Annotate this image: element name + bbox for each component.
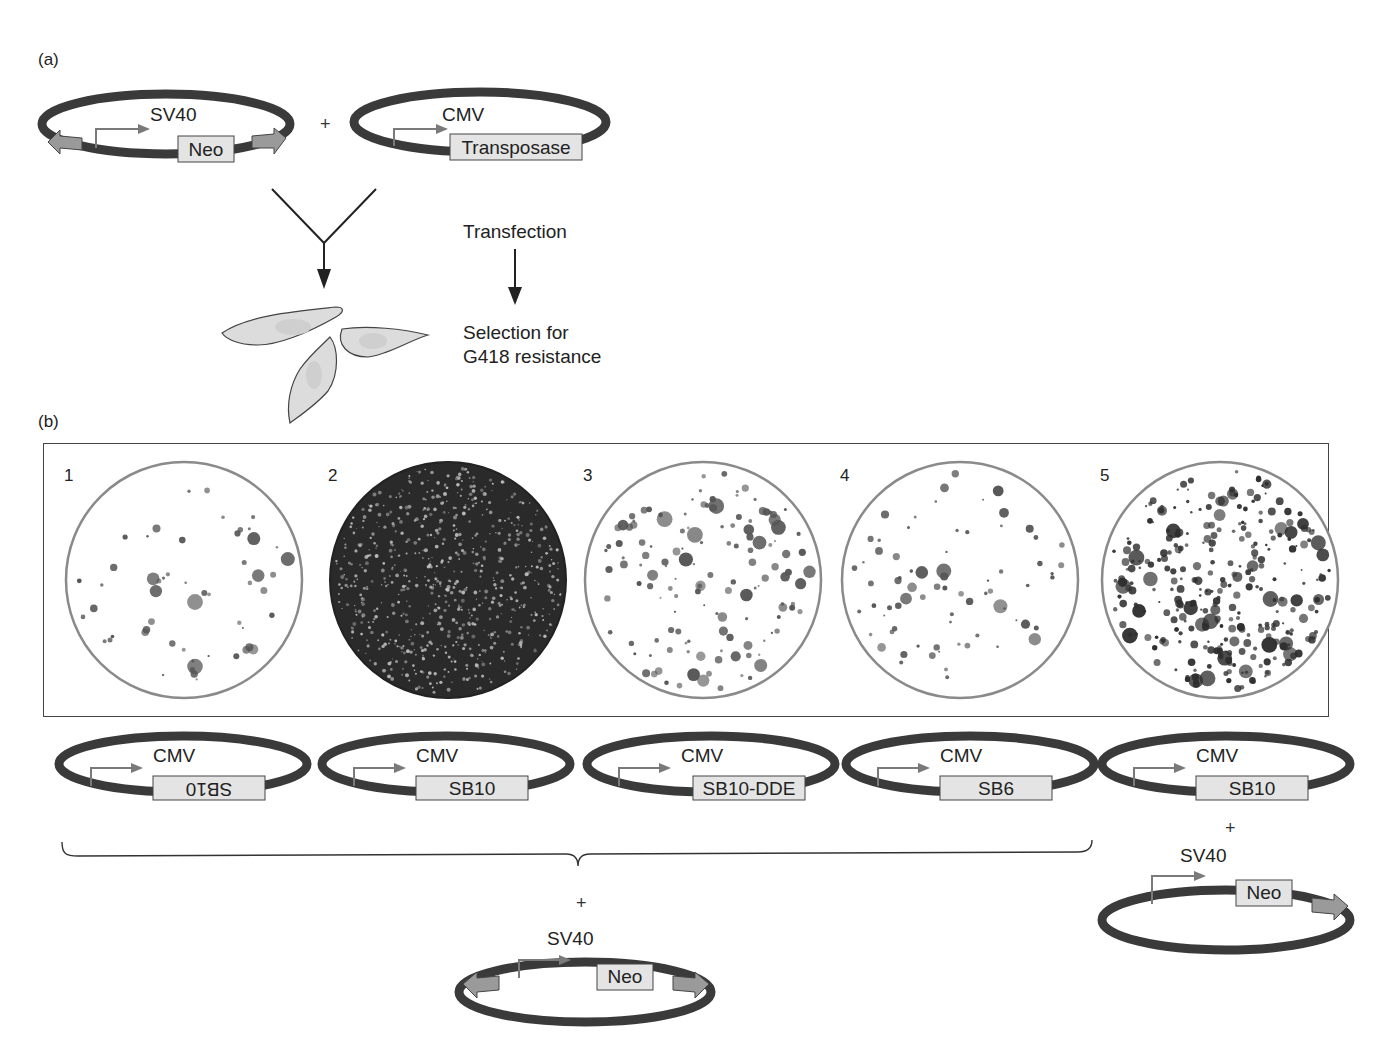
- gene-label: SB6: [940, 778, 1052, 800]
- promoter-label: CMV: [1196, 745, 1238, 767]
- plate-number: 5: [1100, 466, 1109, 486]
- converge-arrow-icon: [260, 185, 390, 295]
- down-arrow-icon: [505, 249, 525, 309]
- plus-sign: +: [1225, 818, 1236, 839]
- promoter-label: CMV: [681, 745, 723, 767]
- plate-number: 3: [583, 466, 592, 486]
- promoter-label: SV40: [1180, 845, 1226, 867]
- promoter-label: CMV: [153, 745, 195, 767]
- gene-label: Neo: [178, 139, 234, 161]
- promoter-label: SV40: [150, 104, 196, 126]
- selection-step-line1: Selection for: [463, 322, 569, 344]
- plate-number: 4: [840, 466, 849, 486]
- lane5-donor-plasmid: SV40 Neo: [1098, 870, 1358, 960]
- promoter-label: CMV: [416, 745, 458, 767]
- plus-sign: +: [320, 114, 331, 135]
- culture-plate-1: [62, 456, 312, 706]
- transposase-plasmid: CMV Transposase: [350, 86, 615, 166]
- transposase-plasmid-lane-3: CMVSB10-DDE: [583, 728, 843, 808]
- bracket-icon: [58, 840, 1098, 880]
- gene-label: SB10: [1196, 778, 1308, 800]
- gene-label: SB10-DDE: [693, 778, 805, 800]
- gene-label: Neo: [1236, 882, 1292, 904]
- transposase-plasmid-lane-4: CMVSB6: [842, 728, 1102, 808]
- cultured-cells-icon: [218, 305, 433, 425]
- gene-label: Transposase: [450, 137, 582, 159]
- promoter-label: CMV: [442, 104, 484, 126]
- culture-plate-3: [581, 456, 831, 706]
- plate-number: 1: [64, 466, 73, 486]
- shared-donor-plasmid: SV40 Neo: [455, 948, 720, 1028]
- selection-step-line2: G418 resistance: [463, 346, 601, 368]
- culture-plate-2: [326, 456, 576, 706]
- culture-plate-5: [1098, 456, 1348, 706]
- culture-plate-4: [838, 456, 1088, 706]
- transposase-plasmid-lane-1: CMVSB10: [55, 728, 315, 808]
- transposase-plasmid-lane-5: CMVSB10: [1098, 728, 1358, 808]
- panel-a-label: (a): [38, 50, 59, 70]
- plate-number: 2: [328, 466, 337, 486]
- transposase-plasmid-lane-2: CMVSB10: [318, 728, 578, 808]
- promoter-label: CMV: [940, 745, 982, 767]
- donor-plasmid-neo: SV40 Neo: [38, 86, 298, 166]
- promoter-label: SV40: [547, 928, 593, 950]
- gene-label: SB10: [416, 778, 528, 800]
- gene-label: Neo: [597, 966, 653, 988]
- transfection-step: Transfection: [463, 221, 567, 243]
- panel-b-label: (b): [38, 412, 59, 432]
- plus-sign: +: [576, 893, 587, 914]
- gene-label: SB10: [153, 778, 265, 800]
- colony-plates-panel: 12345: [43, 443, 1329, 717]
